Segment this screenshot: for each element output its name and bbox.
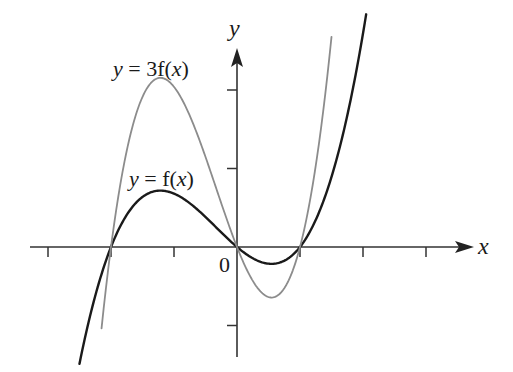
axes bbox=[30, 48, 474, 357]
y-axis-label: y bbox=[227, 15, 240, 41]
label-y-equals-fx: y = f(x) bbox=[127, 166, 194, 191]
label-3f-close: ) bbox=[182, 56, 189, 81]
label-3f-eq: = 3f( bbox=[123, 56, 172, 81]
label-f-y: y bbox=[127, 166, 139, 191]
y-axis-ticks bbox=[227, 90, 237, 326]
origin-label: 0 bbox=[219, 252, 230, 277]
x-axis-label: x bbox=[477, 233, 489, 259]
label-y-equals-3fx: y = 3f(x) bbox=[111, 56, 189, 81]
label-f-eq: = f( bbox=[139, 166, 177, 191]
label-3f-x: x bbox=[171, 56, 182, 81]
label-f-x: x bbox=[176, 166, 187, 191]
label-f-close: ) bbox=[187, 166, 194, 191]
cubic-graph: x y 0 y = 3f(x) y = f(x) bbox=[0, 0, 513, 372]
label-3f-y: y bbox=[111, 56, 123, 81]
